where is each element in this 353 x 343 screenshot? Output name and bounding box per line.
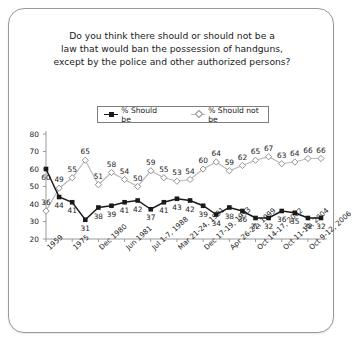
y-axis-tick-label: 30 xyxy=(23,217,39,226)
data-point-label: 62 xyxy=(238,153,247,162)
data-point-label: 36 xyxy=(238,215,247,224)
data-point-label: 51 xyxy=(94,172,103,181)
data-point-label: 43 xyxy=(172,203,181,212)
data-point-label: 32 xyxy=(316,222,325,231)
y-axis-tick-label: 50 xyxy=(23,182,39,191)
data-point-label: 32 xyxy=(251,222,260,231)
y-axis-tick-label: 20 xyxy=(23,235,39,244)
data-point-label: 35 xyxy=(290,217,299,226)
data-point-label: 58 xyxy=(107,160,116,169)
line-chart-plot: 2030405060708019591975Dec 1980Jun 1981Ju… xyxy=(9,9,335,334)
data-point-label: 50 xyxy=(133,174,142,183)
data-point-label: 55 xyxy=(159,165,168,174)
data-point-label: 32 xyxy=(264,222,273,231)
data-point-label: 44 xyxy=(54,201,63,210)
data-point-label: 60 xyxy=(41,173,50,182)
data-point-label: 60 xyxy=(198,156,207,165)
data-point-label: 65 xyxy=(81,147,90,156)
data-point-label: 31 xyxy=(81,224,90,233)
data-point-label: 65 xyxy=(251,147,260,156)
data-point-label: 64 xyxy=(290,149,299,158)
y-axis-tick-label: 70 xyxy=(23,147,39,156)
data-point-label: 66 xyxy=(316,146,325,155)
data-point-label: 54 xyxy=(120,167,129,176)
data-point-label: 36 xyxy=(277,215,286,224)
data-point-label: 63 xyxy=(277,151,286,160)
data-point-label: 67 xyxy=(264,144,273,153)
y-axis-tick-label: 40 xyxy=(23,200,39,209)
data-point-label: 41 xyxy=(67,206,76,215)
data-point-label: 37 xyxy=(146,213,155,222)
data-point-label: 34 xyxy=(212,219,221,228)
y-axis-tick-label: 60 xyxy=(23,165,39,174)
data-point-label: 42 xyxy=(185,205,194,214)
data-point-label: 32 xyxy=(303,222,312,231)
data-point-label: 59 xyxy=(146,158,155,167)
data-point-label: 54 xyxy=(185,167,194,176)
data-point-label: 38 xyxy=(225,212,234,221)
data-point-label: 49 xyxy=(54,175,63,184)
data-point-label: 41 xyxy=(159,206,168,215)
y-axis-tick-label: 80 xyxy=(23,130,39,139)
data-point-label: 55 xyxy=(67,165,76,174)
data-point-label: 42 xyxy=(133,205,142,214)
data-point-label: 53 xyxy=(172,168,181,177)
data-point-label: 66 xyxy=(303,146,312,155)
data-point-label: 39 xyxy=(107,210,116,219)
data-point-label: 39 xyxy=(198,210,207,219)
data-point-label: 59 xyxy=(225,158,234,167)
data-point-label: 41 xyxy=(120,206,129,215)
data-point-label: 38 xyxy=(94,212,103,221)
data-point-label: 36 xyxy=(41,198,50,207)
chart-card: Do you think there should or should not … xyxy=(8,8,334,333)
data-point-label: 64 xyxy=(212,149,221,158)
